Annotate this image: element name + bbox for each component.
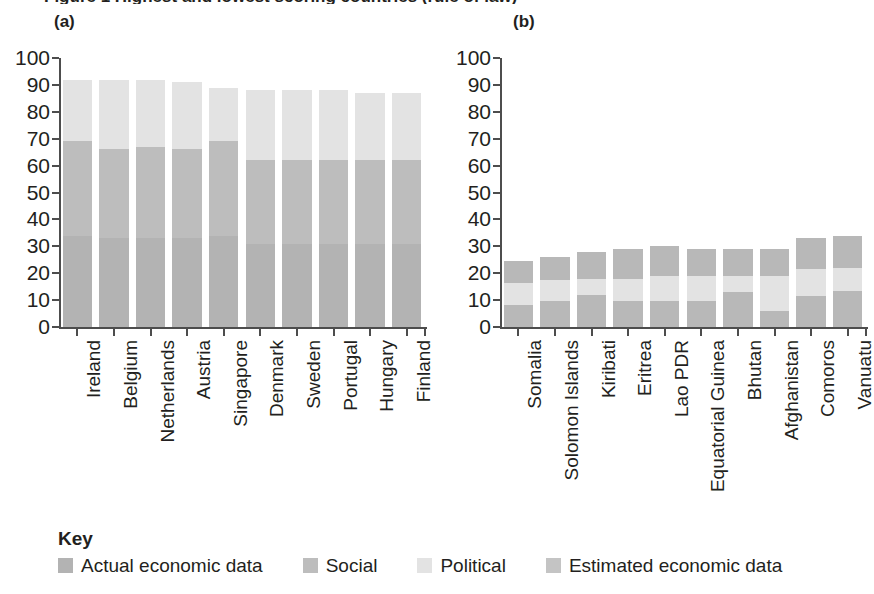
category-label: Sweden	[304, 340, 323, 409]
bar-segment	[172, 238, 201, 327]
panel-b-bars	[500, 58, 866, 327]
bar-segment	[355, 93, 384, 160]
legend-swatch-icon	[58, 558, 73, 573]
bar-segment	[209, 236, 238, 327]
bar-segment	[392, 93, 421, 160]
category-label: Vanuatu	[855, 340, 874, 409]
y-tick-label: 10	[27, 289, 50, 310]
panel-b-label: (b)	[513, 12, 535, 32]
y-tick-label: 30	[27, 235, 50, 256]
bar	[833, 236, 862, 327]
panel-a-category-labels: IrelandBelgiumNetherlandsAustriaSingapor…	[59, 340, 425, 515]
bar-segment	[246, 90, 275, 160]
y-tick-label: 90	[468, 74, 491, 95]
y-tick-label: 90	[27, 74, 50, 95]
category-label: Ireland	[84, 340, 103, 398]
y-tick	[52, 165, 59, 167]
y-tick	[52, 326, 59, 328]
bar-segment	[833, 291, 862, 327]
y-tick-label: 30	[468, 235, 491, 256]
y-tick-label: 80	[27, 101, 50, 122]
x-tick	[333, 327, 335, 336]
x-tick	[517, 327, 519, 336]
y-tick	[52, 111, 59, 113]
bar	[613, 249, 642, 327]
category-label: Portugal	[341, 340, 360, 411]
bar-segment	[577, 252, 606, 279]
bar-segment	[650, 276, 679, 302]
y-tick	[52, 138, 59, 140]
y-tick	[52, 245, 59, 247]
y-tick-label: 20	[468, 262, 491, 283]
bar-segment	[504, 305, 533, 327]
y-tick	[52, 57, 59, 59]
category-label: Somalia	[525, 340, 544, 409]
bar	[209, 88, 238, 327]
bar-segment	[723, 292, 752, 327]
panel-a-bars	[59, 58, 425, 327]
legend-swatch-icon	[417, 558, 432, 573]
y-tick	[493, 57, 500, 59]
bar-segment	[99, 80, 128, 150]
bar-segment	[246, 244, 275, 327]
bar-segment	[319, 244, 348, 327]
y-tick	[493, 138, 500, 140]
category-label: Singapore	[231, 340, 250, 427]
bar-segment	[796, 238, 825, 269]
category-label: Belgium	[121, 340, 140, 409]
x-tick	[774, 327, 776, 336]
bar-segment	[209, 141, 238, 235]
y-tick	[493, 299, 500, 301]
bar-segment	[172, 149, 201, 238]
bar-segment	[540, 301, 569, 327]
category-label: Eritrea	[635, 340, 654, 396]
bar-segment	[99, 149, 128, 238]
bar-segment	[577, 279, 606, 295]
x-tick	[424, 327, 426, 336]
legend-items: Actual economic dataSocialPoliticalEstim…	[58, 556, 874, 575]
category-label: Hungary	[377, 340, 396, 412]
bar	[760, 249, 789, 327]
bar-segment	[577, 295, 606, 327]
bar-segment	[63, 141, 92, 235]
y-tick	[493, 111, 500, 113]
category-label: Finland	[414, 340, 433, 402]
bar	[687, 249, 716, 327]
bar	[319, 90, 348, 327]
bar	[577, 252, 606, 327]
bar-segment	[99, 238, 128, 327]
y-tick	[493, 165, 500, 167]
category-label: Bhutan	[745, 340, 764, 400]
bar-segment	[613, 279, 642, 302]
legend-item: Political	[417, 556, 505, 575]
bar-segment	[319, 90, 348, 160]
category-label: Equatorial Guinea	[708, 340, 727, 492]
y-tick-label: 50	[468, 182, 491, 203]
x-tick	[664, 327, 666, 336]
bar-segment	[282, 90, 311, 160]
y-tick	[52, 299, 59, 301]
bar-segment	[613, 301, 642, 327]
bar-segment	[540, 280, 569, 302]
bar	[246, 90, 275, 327]
bar	[392, 93, 421, 327]
bar-segment	[63, 80, 92, 142]
bar-segment	[613, 249, 642, 279]
y-tick	[52, 272, 59, 274]
panel-a-label: (a)	[54, 12, 75, 32]
bar	[63, 80, 92, 327]
x-tick	[700, 327, 702, 336]
y-tick	[493, 192, 500, 194]
category-label: Denmark	[267, 340, 286, 417]
x-tick	[847, 327, 849, 336]
x-tick	[369, 327, 371, 336]
y-tick-label: 70	[468, 128, 491, 149]
legend-swatch-icon	[546, 558, 561, 573]
y-tick-label: 0	[38, 316, 50, 337]
y-tick-label: 80	[468, 101, 491, 122]
bar	[99, 80, 128, 327]
bar-segment	[136, 147, 165, 238]
y-tick	[493, 84, 500, 86]
bar	[136, 80, 165, 327]
bar	[282, 90, 311, 327]
